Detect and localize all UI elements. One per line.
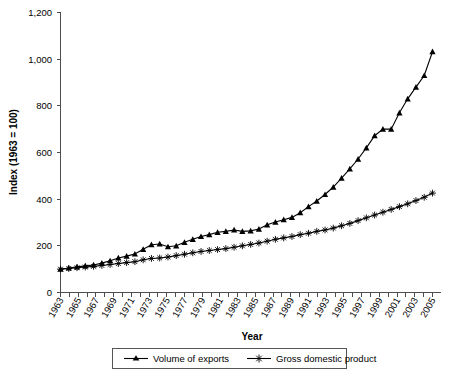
- asterisk-marker: [338, 222, 345, 229]
- x-tick-label: 1973: [134, 296, 154, 320]
- y-tick-label: 1,200: [28, 7, 52, 18]
- x-tick-label-group: 1963196519671969197119731975197719791981…: [46, 296, 438, 320]
- asterisk-marker: [156, 255, 163, 262]
- triangle-marker: [421, 72, 427, 78]
- asterisk-marker: [280, 235, 287, 242]
- triangle-marker: [256, 226, 262, 232]
- asterisk-marker: [413, 197, 420, 204]
- asterisk-marker: [98, 262, 105, 269]
- y-axis-title: Index (1963 = 100): [8, 109, 19, 195]
- asterisk-marker: [380, 209, 387, 216]
- y-tick-label: 400: [36, 194, 52, 205]
- asterisk-marker: [198, 248, 205, 255]
- asterisk-marker: [388, 206, 395, 213]
- x-tick-label: 1983: [223, 296, 243, 320]
- y-axis: 02004006008001,0001,200: [28, 7, 60, 298]
- asterisk-marker: [330, 225, 337, 232]
- asterisk-marker: [289, 233, 296, 240]
- asterisk-marker: [239, 242, 246, 249]
- x-tick-label: 1965: [63, 296, 83, 320]
- asterisk-marker: [65, 265, 72, 272]
- asterisk-marker: [371, 212, 378, 219]
- legend-label-gdp: Gross domestic product: [276, 353, 377, 364]
- chart-container: 02004006008001,0001,200 1963196519671969…: [0, 0, 458, 380]
- x-tick-label: 1993: [311, 296, 331, 320]
- series-line: [61, 52, 433, 269]
- x-tick-label: 1963: [46, 296, 66, 320]
- asterisk-marker: [322, 227, 329, 234]
- y-tick-group: [57, 13, 61, 293]
- asterisk-marker: [206, 247, 213, 254]
- y-tick-label-group: 02004006008001,0001,200: [28, 7, 52, 298]
- triangle-marker: [305, 204, 311, 210]
- series-layer: [57, 49, 436, 273]
- x-tick-label: 1989: [276, 296, 296, 320]
- x-tick-label: 2001: [382, 296, 402, 320]
- asterisk-marker: [396, 203, 403, 210]
- legend: Volume of exports Gross domestic product: [113, 349, 377, 369]
- asterisk-marker: [115, 260, 122, 267]
- triangle-marker: [140, 246, 146, 252]
- x-tick-label: 2003: [400, 296, 420, 320]
- asterisk-marker: [313, 228, 320, 235]
- x-tick-label: 1969: [99, 296, 119, 320]
- triangle-marker: [231, 227, 237, 233]
- asterisk-marker: [305, 230, 312, 237]
- y-tick-label: 1,000: [28, 54, 52, 65]
- y-tick-label: 600: [36, 147, 52, 158]
- asterisk-marker: [214, 246, 221, 253]
- x-tick-label: 1987: [258, 296, 278, 320]
- asterisk-marker: [429, 190, 436, 197]
- x-tick-label: 1979: [187, 296, 207, 320]
- asterisk-marker: [247, 241, 254, 248]
- asterisk-marker: [355, 217, 362, 224]
- asterisk-marker: [57, 266, 64, 273]
- asterisk-marker: [140, 256, 147, 263]
- x-tick-label: 1977: [170, 296, 190, 320]
- asterisk-marker: [222, 245, 229, 252]
- asterisk-marker: [173, 252, 180, 259]
- y-tick-label: 0: [47, 287, 52, 298]
- asterisk-marker: [90, 263, 97, 270]
- x-tick-group: [61, 293, 433, 297]
- asterisk-marker: [107, 261, 114, 268]
- asterisk-marker: [189, 249, 196, 256]
- line-chart: 02004006008001,0001,200 1963196519671969…: [0, 0, 458, 380]
- x-tick-label: 1971: [116, 296, 136, 320]
- asterisk-marker: [181, 251, 188, 258]
- asterisk-marker: [74, 264, 81, 271]
- x-tick-label: 1997: [347, 296, 367, 320]
- asterisk-marker: [132, 258, 139, 265]
- x-tick-label: 1985: [240, 296, 260, 320]
- y-tick-label: 800: [36, 100, 52, 111]
- asterisk-marker: [148, 255, 155, 262]
- legend-label-exports: Volume of exports: [153, 353, 229, 364]
- asterisk-marker: [346, 220, 353, 227]
- triangle-marker: [132, 251, 138, 257]
- triangle-marker: [396, 110, 402, 116]
- x-axis-title: Year: [241, 331, 262, 342]
- asterisk-marker: [264, 238, 271, 245]
- asterisk-marker: [421, 194, 428, 201]
- x-tick-label: 1995: [329, 296, 349, 320]
- asterisk-marker: [256, 240, 263, 247]
- series-volume-of-exports: [57, 49, 435, 272]
- x-tick-label: 1967: [81, 296, 101, 320]
- asterisk-marker: [363, 214, 370, 221]
- asterisk-marker: [272, 236, 279, 243]
- asterisk-marker: [297, 231, 304, 238]
- x-tick-label: 1999: [364, 296, 384, 320]
- asterisk-marker: [123, 259, 130, 266]
- asterisk-marker: [165, 254, 172, 261]
- triangle-marker: [289, 214, 295, 220]
- triangle-marker: [429, 49, 435, 55]
- x-tick-label: 2005: [418, 296, 438, 320]
- x-axis: 1963196519671969197119731975197719791981…: [46, 293, 441, 320]
- y-tick-label: 200: [36, 240, 52, 251]
- asterisk-marker: [231, 244, 238, 251]
- x-tick-label: 1981: [205, 296, 225, 320]
- asterisk-marker: [82, 264, 89, 271]
- x-tick-label: 1975: [152, 296, 172, 320]
- x-tick-label: 1991: [294, 296, 314, 320]
- asterisk-marker: [404, 200, 411, 207]
